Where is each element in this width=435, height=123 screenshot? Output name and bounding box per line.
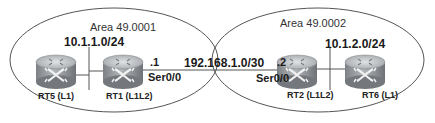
area-label-49-0002: Area 49.0002 xyxy=(280,18,346,29)
router-label-rt1: RT1 (L1L2) xyxy=(106,92,153,101)
rt1-host-address: .1 xyxy=(150,57,159,68)
subnet-label-lan1: 10.1.1.0/24 xyxy=(64,36,124,48)
subnet-label-wan: 192.168.1.0/30 xyxy=(184,57,264,69)
router-icon xyxy=(36,55,76,89)
router-label-rt5: RT5 (L1) xyxy=(38,92,74,101)
router-icon xyxy=(103,55,143,89)
router-label-rt6: RT6 (L1) xyxy=(362,91,398,100)
rt1-interface-label: Ser0/0 xyxy=(148,72,181,83)
area-label-49-0001: Area 49.0001 xyxy=(90,22,156,33)
rt2-interface-label: Ser0/0 xyxy=(256,73,289,84)
subnet-label-lan2: 10.1.2.0/24 xyxy=(325,38,385,50)
router-icon xyxy=(345,55,385,89)
router-label-rt2: RT2 (L1L2) xyxy=(287,91,334,100)
rt2-host-address: .2 xyxy=(277,57,286,68)
